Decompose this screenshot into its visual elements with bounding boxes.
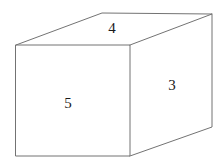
top-face-dimension-label: 4 [108,21,116,36]
figure-canvas: 4 3 5 [0,0,224,164]
front-face [16,45,130,156]
right-face-dimension-label: 3 [168,78,176,93]
front-face-dimension-label: 5 [64,96,72,111]
